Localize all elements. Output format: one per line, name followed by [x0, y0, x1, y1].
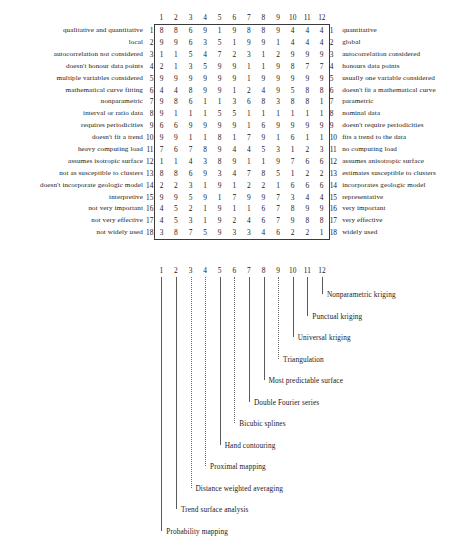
- column-header-5: 5: [212, 12, 227, 24]
- row-label-right: fits a trend to the data: [342, 132, 468, 144]
- method-legend-area: 123456789101112 Probability mappingTrend…: [0, 266, 468, 462]
- column-header-9: 9: [271, 12, 286, 24]
- header-spacer-right-rownum: [329, 12, 342, 24]
- matrix-cell: 5: [169, 215, 184, 227]
- matrix-cell: 9: [315, 203, 330, 215]
- matrix-cell: 6: [315, 179, 330, 191]
- matrix-cell: 7: [271, 203, 286, 215]
- row-label-right: very effective: [342, 215, 468, 227]
- header-spacer-right-label: [342, 12, 468, 24]
- matrix-cell: 6: [242, 96, 257, 108]
- matrix-cell: 9: [271, 84, 286, 96]
- matrix-cell: 8: [256, 168, 271, 180]
- row-number-left: 8: [143, 108, 154, 120]
- row-number-right: 6: [329, 84, 342, 96]
- leader-line-column-9: [278, 277, 279, 359]
- row-label-right: incorporates geologic model: [342, 179, 468, 191]
- matrix-cell: 5: [198, 227, 213, 239]
- row-label-right: usually one variable considered: [342, 72, 468, 84]
- row-label-right: very important: [342, 203, 468, 215]
- matrix-cell: 1: [285, 144, 300, 156]
- matrix-cell: 9: [256, 191, 271, 203]
- matrix-cell: 3: [242, 49, 257, 61]
- column-header-8: 8: [256, 12, 271, 24]
- row-number-left: 4: [143, 61, 154, 73]
- matrix-cell: 6: [183, 96, 198, 108]
- matrix-cell: 1: [271, 132, 286, 144]
- matrix-cell: 9: [242, 37, 257, 49]
- matrix-cell: 9: [271, 120, 286, 132]
- matrix-cell: 5: [183, 49, 198, 61]
- row-number-right: 1: [329, 24, 342, 36]
- row-number-left: 5: [143, 72, 154, 84]
- legend-column-index-12: 12: [315, 266, 330, 275]
- row-label-right: representative: [342, 191, 468, 203]
- table-row: doesn't honour data points42135991198774…: [0, 61, 468, 73]
- legend-column-index-5: 5: [212, 266, 227, 275]
- matrix-cell: 5: [212, 108, 227, 120]
- table-row: autocorrelation not considered3115472312…: [0, 49, 468, 61]
- matrix-cell: 1: [198, 132, 213, 144]
- column-header-11: 11: [300, 12, 315, 24]
- matrix-cell: 1: [169, 61, 184, 73]
- matrix-cell: 6: [300, 179, 315, 191]
- matrix-cell: 1: [271, 108, 286, 120]
- column-header-1: 1: [154, 12, 169, 24]
- column-header-6: 6: [227, 12, 242, 24]
- method-label-2: Trend surface analysis: [181, 505, 249, 514]
- matrix-cell: 2: [227, 49, 242, 61]
- row-number-right: 2: [329, 37, 342, 49]
- matrix-cell: 1: [212, 24, 227, 36]
- matrix-cell: 4: [227, 168, 242, 180]
- column-header-10: 10: [285, 12, 300, 24]
- matrix-cell: 1: [242, 61, 257, 73]
- matrix-cell: 9: [198, 72, 213, 84]
- matrix-cell: 9: [285, 215, 300, 227]
- row-label-left: local: [0, 37, 143, 49]
- row-number-left: 15: [143, 191, 154, 203]
- matrix-cell: 1: [242, 108, 257, 120]
- matrix-cell: 7: [242, 168, 257, 180]
- matrix-cell: 1: [256, 61, 271, 73]
- matrix-cell: 8: [242, 24, 257, 36]
- matrix-cell: 9: [198, 84, 213, 96]
- matrix-cell: 9: [212, 144, 227, 156]
- matrix-cell: 2: [242, 84, 257, 96]
- row-number-right: 5: [329, 72, 342, 84]
- matrix-cell: 1: [271, 37, 286, 49]
- matrix-cell: 2: [227, 215, 242, 227]
- matrix-cell: 9: [169, 191, 184, 203]
- matrix-cell: 9: [315, 72, 330, 84]
- matrix-cell: 1: [183, 132, 198, 144]
- table-row: local29963519914442global: [0, 37, 468, 49]
- table-row: interval or ratio data89111551111118nomi…: [0, 108, 468, 120]
- matrix-cell: 8: [169, 227, 184, 239]
- row-number-right: 10: [329, 132, 342, 144]
- matrix-cell: 2: [183, 203, 198, 215]
- leader-line-column-2: [176, 277, 177, 509]
- method-label-3: Distance weighted averaging: [196, 484, 283, 493]
- matrix-cell: 1: [242, 156, 257, 168]
- matrix-body: qualitative and quantitative188691988944…: [0, 24, 468, 239]
- matrix-cell: 8: [169, 96, 184, 108]
- row-label-left: doesn't honour data points: [0, 61, 143, 73]
- matrix-cell: 1: [183, 108, 198, 120]
- matrix-cell: 1: [315, 108, 330, 120]
- matrix-cell: 8: [169, 24, 184, 36]
- matrix-cell: 3: [183, 215, 198, 227]
- table-row: multiple variables considered59999991999…: [0, 72, 468, 84]
- matrix-cell: 6: [315, 156, 330, 168]
- matrix-cell: 9: [315, 120, 330, 132]
- table-row: not very effective1745319246798817very e…: [0, 215, 468, 227]
- row-label-left: qualitative and quantitative: [0, 24, 143, 36]
- matrix-cell: 4: [300, 37, 315, 49]
- leader-line-column-8: [264, 277, 265, 380]
- matrix-cell: 2: [271, 49, 286, 61]
- matrix-cell: 1: [198, 96, 213, 108]
- row-label-left: interval or ratio data: [0, 108, 143, 120]
- matrix-cell: 4: [256, 84, 271, 96]
- matrix-cell: 8: [212, 156, 227, 168]
- matrix-cell: 6: [285, 179, 300, 191]
- row-number-left: 14: [143, 179, 154, 191]
- row-number-right: 8: [329, 108, 342, 120]
